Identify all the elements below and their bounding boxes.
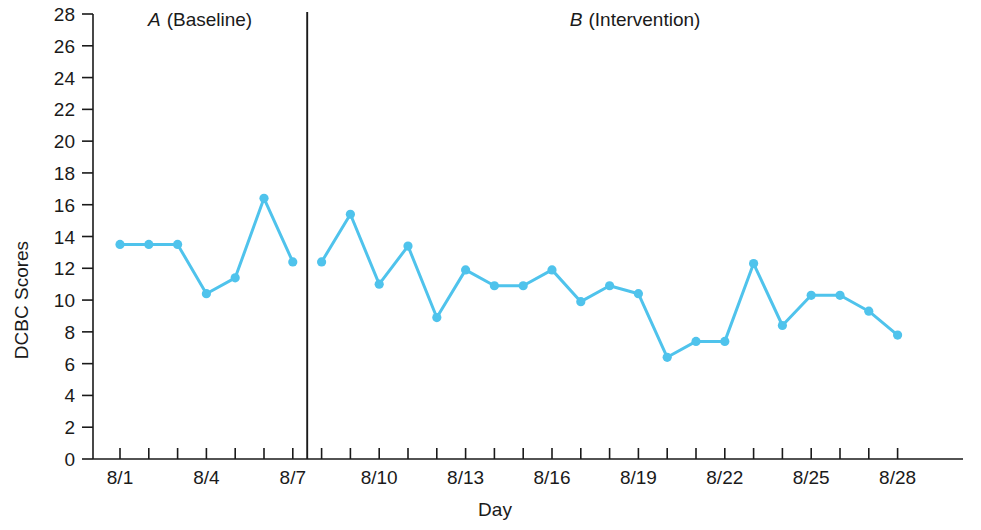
y-tick-label: 28 — [54, 4, 75, 25]
x-tick-label: 8/1 — [107, 467, 133, 488]
data-point — [547, 265, 556, 274]
x-tick-label: 8/16 — [534, 467, 571, 488]
data-point — [490, 281, 499, 290]
y-tick-label: 18 — [54, 163, 75, 184]
y-tick-label: 14 — [54, 227, 76, 248]
data-point — [173, 240, 182, 249]
phase-a-name: (Baseline) — [167, 9, 253, 30]
x-tick-label: 8/4 — [193, 467, 220, 488]
data-point — [605, 281, 614, 290]
data-point — [461, 265, 470, 274]
data-point — [634, 289, 643, 298]
y-tick-label: 24 — [54, 68, 76, 89]
data-point — [115, 240, 124, 249]
y-tick-label: 12 — [54, 258, 75, 279]
data-point — [231, 273, 240, 282]
x-tick-label: 8/13 — [447, 467, 484, 488]
data-point — [519, 281, 528, 290]
x-tick-label: 8/10 — [361, 467, 398, 488]
phase-a-letter: A — [147, 9, 161, 30]
data-point — [893, 330, 902, 339]
data-point — [749, 259, 758, 268]
data-point — [288, 257, 297, 266]
data-point — [202, 289, 211, 298]
x-tick-label: 8/7 — [280, 467, 306, 488]
data-point — [864, 307, 873, 316]
y-tick-label: 2 — [64, 417, 75, 438]
data-point — [375, 280, 384, 289]
y-tick-label: 8 — [64, 322, 75, 343]
x-tick-label: 8/28 — [879, 467, 916, 488]
y-tick-label: 4 — [64, 385, 75, 406]
data-point — [691, 337, 700, 346]
y-axis-title: DCBC Scores — [11, 241, 32, 359]
x-tick-label: 8/22 — [706, 467, 743, 488]
y-tick-label: 6 — [64, 354, 75, 375]
data-point — [778, 321, 787, 330]
data-point — [144, 240, 153, 249]
y-tick-label: 20 — [54, 131, 75, 152]
y-tick-label: 26 — [54, 36, 75, 57]
phase-b-name: (Intervention) — [588, 9, 700, 30]
data-point — [403, 241, 412, 250]
x-axis-title: Day — [478, 499, 512, 520]
y-tick-label: 22 — [54, 99, 75, 120]
y-tick-label: 16 — [54, 195, 75, 216]
data-point — [576, 297, 585, 306]
data-point — [807, 291, 816, 300]
x-tick-label: 8/19 — [620, 467, 657, 488]
data-point — [259, 194, 268, 203]
line-chart-svg: 0246810121416182022242628 DCBC Scores 8/… — [0, 0, 981, 530]
data-point — [317, 257, 326, 266]
chart-figure: 0246810121416182022242628 DCBC Scores 8/… — [0, 0, 981, 530]
x-tick-label: 8/25 — [793, 467, 830, 488]
chart-background — [0, 0, 981, 530]
data-point — [432, 313, 441, 322]
data-point — [346, 210, 355, 219]
y-tick-label: 10 — [54, 290, 75, 311]
phase-b-letter: B — [570, 9, 583, 30]
data-point — [663, 353, 672, 362]
phase-b-label: B(Intervention) — [570, 9, 701, 30]
data-point — [720, 337, 729, 346]
data-point — [835, 291, 844, 300]
y-tick-label: 0 — [64, 449, 75, 470]
